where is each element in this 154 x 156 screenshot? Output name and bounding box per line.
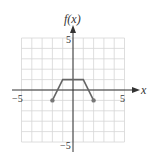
function-graph: f(x) x −5 5 5 −5 — [0, 0, 154, 156]
x-max-tick-label: 5 — [120, 93, 125, 104]
x-min-tick-label: −5 — [12, 93, 23, 104]
y-min-tick-label: −5 — [60, 140, 71, 151]
y-max-tick-label: 5 — [66, 34, 71, 45]
axes — [12, 25, 140, 152]
x-axis-label: x — [140, 83, 147, 97]
y-axis-label: f(x) — [64, 12, 81, 26]
